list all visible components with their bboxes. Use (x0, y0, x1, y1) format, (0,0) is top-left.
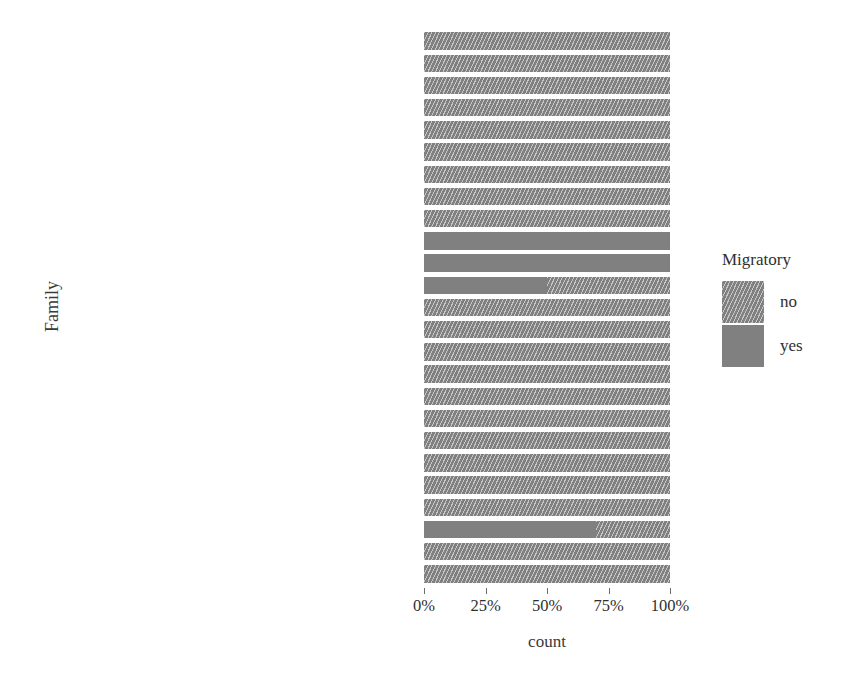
bar-segment-no (424, 410, 670, 427)
x-axis-tick-label: 50% (532, 596, 562, 616)
bar-row (424, 365, 670, 382)
bar-row (424, 410, 670, 427)
bar-row (424, 77, 670, 94)
bar-segment-yes (424, 277, 547, 294)
legend-key-swatch (722, 325, 764, 367)
bar-segment-no (424, 454, 670, 471)
x-axis-tick-mark (670, 588, 671, 594)
bar-segment-no (424, 299, 670, 316)
y-axis-tick-labels: unclassified Lepidoptera–unclassified In… (0, 0, 418, 679)
bar-row (424, 432, 670, 449)
plot-panel (424, 30, 670, 585)
legend-item-label: yes (780, 336, 803, 356)
x-axis-tick-mark (547, 588, 548, 594)
bar-row (424, 321, 670, 338)
legend-item-no[interactable]: no (722, 280, 842, 324)
bar-segment-no (424, 210, 670, 227)
bar-row (424, 343, 670, 360)
bar-row (424, 232, 670, 249)
bar-segment-no (424, 365, 670, 382)
bar-segment-no (424, 99, 670, 116)
bar-row (424, 499, 670, 516)
x-axis-tick-mark (486, 588, 487, 594)
bar-segment-no (424, 121, 670, 138)
bar-segment-no (424, 188, 670, 205)
bar-row (424, 388, 670, 405)
bar-segment-no (424, 343, 670, 360)
bar-row (424, 55, 670, 72)
legend: Migratory noyes (722, 250, 842, 368)
bar-segment-yes (424, 232, 670, 249)
bar-segment-no (547, 277, 670, 294)
bar-row (424, 299, 670, 316)
bar-segment-no (424, 543, 670, 560)
bar-row (424, 143, 670, 160)
x-axis-title: count (424, 632, 670, 652)
legend-title: Migratory (722, 250, 842, 270)
bar-segment-no (424, 77, 670, 94)
x-axis-tick-mark (424, 588, 425, 594)
bar-row (424, 521, 670, 538)
bar-segment-no (424, 321, 670, 338)
bar-row (424, 543, 670, 560)
bar-row (424, 99, 670, 116)
bar-segment-no (424, 476, 670, 493)
bar-segment-no (424, 565, 670, 582)
x-axis-tick-label: 75% (593, 596, 623, 616)
legend-key-swatch (722, 281, 764, 323)
bar-segment-no (424, 499, 670, 516)
legend-item-label: no (780, 292, 797, 312)
bar-row (424, 32, 670, 49)
bar-row (424, 188, 670, 205)
bar-row (424, 210, 670, 227)
bar-row (424, 565, 670, 582)
bar-segment-no (424, 166, 670, 183)
bar-segment-yes (424, 521, 596, 538)
legend-item-yes[interactable]: yes (722, 324, 842, 368)
bar-segment-no (424, 143, 670, 160)
percent-stacked-bar-chart: Family unclassified Lepidoptera–unclassi… (0, 0, 848, 679)
bar-row (424, 121, 670, 138)
bar-segment-no (424, 388, 670, 405)
bar-segment-no (424, 32, 670, 49)
bar-segment-no (596, 521, 670, 538)
bar-segment-no (424, 432, 670, 449)
bar-row (424, 277, 670, 294)
bar-row (424, 454, 670, 471)
x-axis-tick-label: 25% (470, 596, 500, 616)
x-axis-tick-mark (609, 588, 610, 594)
x-axis-tick-label: 0% (413, 596, 435, 616)
bar-segment-no (424, 55, 670, 72)
bar-row (424, 166, 670, 183)
bar-row (424, 254, 670, 271)
bar-row (424, 476, 670, 493)
x-axis-tick-label: 100% (651, 596, 690, 616)
bar-segment-yes (424, 254, 670, 271)
